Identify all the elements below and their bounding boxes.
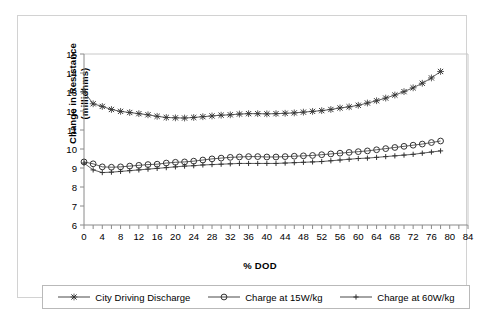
x-tick-label: 16 (152, 231, 163, 242)
series-line (84, 71, 441, 118)
x-tick-label: 12 (134, 231, 145, 242)
legend-label: Charge at 60W/kg (377, 292, 454, 303)
series-line (84, 151, 441, 173)
legend-item-1: City Driving Discharge (57, 291, 190, 303)
x-tick-label: 20 (170, 231, 181, 242)
legend-marker-o-icon (207, 291, 241, 303)
y-tick-label: 7 (72, 201, 77, 212)
x-tick-label: 76 (426, 231, 437, 242)
legend-marker-+-icon (339, 291, 373, 303)
y-tick-label: 6 (72, 220, 77, 231)
figure-root: Change in Resistance (milliohms) 6789101… (0, 0, 486, 313)
y-tick-label: 8 (72, 182, 77, 193)
x-tick-label: 40 (262, 231, 273, 242)
x-tick-label: 72 (408, 231, 419, 242)
x-tick-label: 36 (243, 231, 254, 242)
series-1 (81, 68, 444, 121)
x-tick-label: 64 (371, 231, 382, 242)
y-tick-label: 11 (67, 125, 77, 136)
x-tick-label: 84 (463, 231, 474, 242)
legend-label: City Driving Discharge (95, 292, 190, 303)
x-tick-label: 80 (444, 231, 455, 242)
x-tick-label: 48 (298, 231, 309, 242)
x-tick-label: 4 (100, 231, 106, 242)
y-tick-label: 14 (66, 68, 77, 79)
x-tick-label: 52 (316, 231, 327, 242)
x-tick-label: 28 (207, 231, 218, 242)
legend-item-2: Charge at 15W/kg (207, 291, 322, 303)
y-tick-label: 13 (66, 87, 77, 98)
chart-canvas: 6789101112131415048121620242832364044485… (42, 38, 478, 253)
legend-marker-x-icon (57, 291, 91, 303)
series-2 (81, 138, 443, 170)
x-axis-title: % DOD (42, 260, 478, 271)
y-tick-label: 9 (72, 163, 77, 174)
x-tick-label: 60 (353, 231, 364, 242)
y-tick-label: 12 (66, 106, 77, 117)
chart-legend: City Driving DischargeCharge at 15W/kgCh… (42, 285, 470, 309)
x-tick-label: 0 (81, 231, 86, 242)
y-tick-label: 10 (66, 144, 77, 155)
x-tick-label: 24 (188, 231, 199, 242)
x-tick-label: 32 (225, 231, 236, 242)
figure-frame: Change in Resistance (milliohms) 6789101… (17, 15, 467, 298)
x-tick-label: 56 (335, 231, 346, 242)
x-tick-label: 68 (390, 231, 401, 242)
legend-item-3: Charge at 60W/kg (339, 291, 454, 303)
legend-label: Charge at 15W/kg (245, 292, 322, 303)
series-3 (81, 148, 443, 175)
x-tick-label: 8 (118, 231, 123, 242)
x-tick-label: 44 (280, 231, 291, 242)
plot-area: Change in Resistance (milliohms) 6789101… (42, 38, 478, 253)
y-tick-label: 15 (66, 49, 77, 60)
